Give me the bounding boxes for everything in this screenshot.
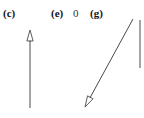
down-left-vector-shaft — [90, 19, 133, 98]
vector-drawing-canvas — [0, 0, 144, 118]
vector-group — [27, 19, 140, 108]
down-left-vector-arrowhead — [85, 96, 93, 107]
figure-panel-container: (c) (e) 0 (g) — [0, 0, 144, 118]
upward-vector-arrowhead — [27, 30, 33, 41]
